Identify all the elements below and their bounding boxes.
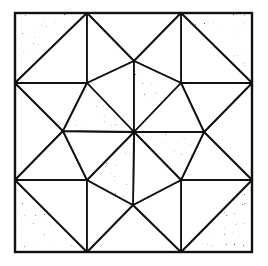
- quilt-block-diagram: [0, 0, 268, 266]
- quilt-figure: Quilt block: octagon pinwheel with star …: [0, 0, 268, 266]
- quilt-pieces: [15, 13, 252, 252]
